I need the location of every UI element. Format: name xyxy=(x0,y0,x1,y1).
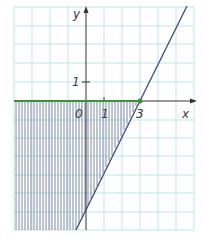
x-axis-label: x xyxy=(181,107,190,121)
x-tick-label-3: 3 xyxy=(136,107,144,121)
y-axis-label: y xyxy=(72,7,81,21)
y-tick-label-1: 1 xyxy=(72,75,80,89)
function-line xyxy=(76,6,187,230)
x-tick-label-1: 1 xyxy=(101,107,109,121)
intercept-point xyxy=(138,99,143,104)
coordinate-graph: y x 0 1 3 1 xyxy=(0,0,203,244)
origin-label: 0 xyxy=(75,107,83,121)
